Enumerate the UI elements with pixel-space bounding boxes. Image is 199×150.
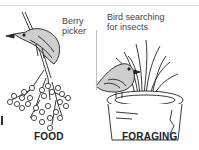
bird-searching-label: Bird searching for insects	[107, 12, 165, 32]
berries-icon	[7, 83, 70, 130]
annotation-line: for insects	[107, 22, 165, 32]
annotation-line: picker	[62, 26, 86, 36]
food-caption: FOOD	[34, 131, 64, 142]
berry-picker-bird-icon	[6, 29, 60, 64]
berry-picker-label: Berry picker	[62, 16, 86, 36]
annotation-line: Bird searching	[107, 12, 165, 22]
illustration	[0, 0, 199, 150]
foraging-caption: FORAGING	[122, 131, 178, 142]
annotation-line: Berry	[62, 16, 86, 26]
annotation-leader-line	[96, 30, 97, 90]
